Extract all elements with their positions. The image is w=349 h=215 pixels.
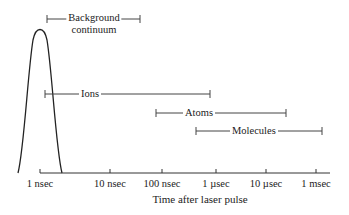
atoms-label: Atoms bbox=[183, 107, 215, 119]
ions-range bbox=[45, 90, 210, 98]
laser-pulse-curve bbox=[18, 30, 62, 174]
background-label-line2: continuum bbox=[68, 24, 119, 36]
tick-label-1us: 1 µsec bbox=[202, 178, 229, 189]
background-continuum-label: Background continuum bbox=[66, 12, 121, 36]
tick-label-1ms: 1 msec bbox=[301, 178, 330, 189]
tick-label-1ns: 1 nsec bbox=[27, 178, 54, 189]
axis-ticks bbox=[40, 169, 316, 173]
ions-label: Ions bbox=[79, 88, 101, 100]
molecules-label: Molecules bbox=[230, 125, 278, 137]
x-axis-title: Time after laser pulse bbox=[152, 193, 247, 205]
tick-label-10ns: 10 nsec bbox=[94, 178, 126, 189]
tick-label-100ns: 100 nsec bbox=[143, 178, 180, 189]
atoms-range bbox=[156, 109, 286, 117]
tick-label-10us: 10 µsec bbox=[250, 178, 283, 189]
background-label-line1: Background bbox=[68, 12, 119, 24]
